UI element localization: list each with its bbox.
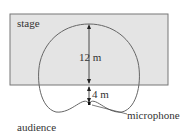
cardioid-diagram: stage 12 m 4 m microphone audience bbox=[0, 0, 184, 132]
dimension-4m-label: 4 m bbox=[92, 89, 109, 100]
microphone-icon bbox=[88, 102, 91, 105]
dimension-12m-label: 12 m bbox=[79, 52, 101, 63]
audience-label: audience bbox=[17, 122, 56, 132]
stage-label: stage bbox=[17, 18, 40, 29]
microphone-label: microphone bbox=[127, 110, 180, 121]
